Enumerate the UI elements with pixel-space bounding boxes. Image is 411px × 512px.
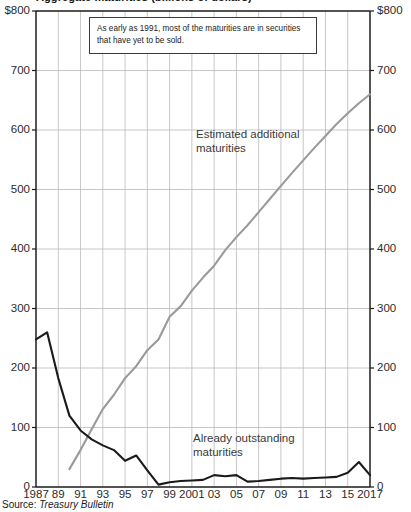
x-axis-label: 99 [163, 489, 176, 501]
x-axis-label: 03 [208, 489, 221, 501]
series-label-already-outstanding: Already outstanding maturities [193, 431, 295, 460]
source-value: Treasury Bulletin [39, 499, 113, 510]
series-label-estimated-additional: Estimated additional maturities [196, 127, 300, 156]
x-axis-label: 95 [119, 489, 132, 501]
y-axis-label-left: 100 [11, 422, 30, 434]
y-axis-label-left: 300 [11, 303, 30, 315]
source-note: Source: Treasury Bulletin [2, 499, 114, 510]
x-axis-label: 97 [141, 489, 154, 501]
x-axis-label: 2001 [179, 489, 205, 501]
annotation-callout: As early as 1991, most of the maturities… [89, 17, 317, 54]
y-axis-label-left: 200 [11, 362, 30, 374]
x-axis-label: 09 [275, 489, 288, 501]
y-axis-label-left: 400 [11, 243, 30, 255]
source-prefix: Source: [2, 499, 36, 510]
y-axis-label-right: 700 [377, 65, 396, 77]
y-axis-label-right: 100 [377, 422, 396, 434]
y-axis-label-right: 400 [377, 243, 396, 255]
y-axis-label-left: 500 [11, 184, 30, 196]
series-line [36, 332, 370, 484]
chart-series-lines [36, 11, 370, 487]
y-axis-label-right: 500 [377, 184, 396, 196]
y-axis-label-left: 600 [11, 124, 30, 136]
chart-figure: Aggregate maturities (billions of dollar… [0, 0, 411, 512]
y-axis-label-right: 200 [377, 362, 396, 374]
y-axis-label-left: $800 [4, 5, 30, 17]
x-axis-label: 11 [297, 489, 309, 501]
y-axis-label-right: 600 [377, 124, 396, 136]
x-axis-label: 07 [252, 489, 265, 501]
chart-title: Aggregate maturities (billions of dollar… [36, 0, 252, 3]
plot-area [36, 11, 370, 487]
y-axis-label-left: 700 [11, 65, 30, 77]
x-axis-label: 05 [230, 489, 243, 501]
x-axis-label: 15 [341, 489, 354, 501]
y-axis-label-right: 300 [377, 303, 396, 315]
x-axis-label: 13 [319, 489, 332, 501]
x-axis-label: 2017 [357, 489, 383, 501]
y-axis-label-right: $800 [377, 5, 403, 17]
